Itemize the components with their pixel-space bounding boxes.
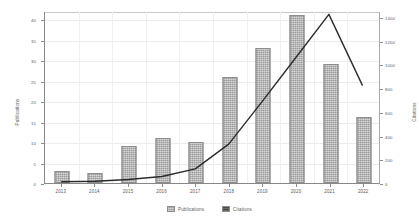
y-axis-left-tick-label: 15 xyxy=(12,120,36,125)
x-axis-tick-label: 2020 xyxy=(291,189,302,194)
y-axis-left-tick-label: 35 xyxy=(12,38,36,43)
y-axis-left-tick-label: 5 xyxy=(12,161,36,166)
plot-area xyxy=(44,12,380,184)
legend-label: Citations xyxy=(233,207,252,212)
x-axis-tick-label: 2014 xyxy=(89,189,100,194)
line-series-citations xyxy=(45,12,379,183)
y-axis-right-tick-label: 1200 xyxy=(385,39,411,44)
x-axis-tick-mark xyxy=(128,184,129,187)
x-axis-tick-mark xyxy=(262,184,263,187)
legend-item[interactable]: Publications xyxy=(167,206,204,212)
x-axis-tick-mark xyxy=(363,184,364,187)
x-axis-tick-mark xyxy=(330,184,331,187)
legend-swatch xyxy=(222,206,230,212)
y-axis-right-tick-label: 600 xyxy=(385,110,411,115)
y-axis-right-tick-label: 400 xyxy=(385,134,411,139)
y-axis-left-tick-label: 40 xyxy=(12,18,36,23)
legend-label: Publications xyxy=(178,207,204,212)
x-axis-tick-mark xyxy=(94,184,95,187)
y-axis-right-title: Citations xyxy=(412,102,417,122)
y-axis-left-tick-label: 0 xyxy=(12,182,36,187)
y-axis-right-tick-label: 0 xyxy=(385,182,411,187)
x-axis-tick-label: 2017 xyxy=(190,189,201,194)
y-axis-left-tick-label: 25 xyxy=(12,79,36,84)
x-axis-tick-label: 2022 xyxy=(358,189,369,194)
y-axis-left-tick-label: 20 xyxy=(12,100,36,105)
x-axis-tick-label: 2016 xyxy=(156,189,167,194)
x-axis-tick-label: 2021 xyxy=(324,189,335,194)
y-axis-right-tick-label: 1000 xyxy=(385,63,411,68)
y-axis-right-tick-label: 1400 xyxy=(385,15,411,20)
chart-figure: Publications Citations 0510152025303540 … xyxy=(0,0,419,224)
y-axis-right-tick-label: 200 xyxy=(385,158,411,163)
legend-item[interactable]: Citations xyxy=(222,206,252,212)
y-axis-left-tick-label: 10 xyxy=(12,141,36,146)
x-axis-tick-label: 2013 xyxy=(55,189,66,194)
x-axis-tick-mark xyxy=(229,184,230,187)
x-axis-tick-mark xyxy=(61,184,62,187)
chart-legend: PublicationsCitations xyxy=(0,206,419,212)
x-axis-tick-label: 2019 xyxy=(257,189,268,194)
y-axis-right-tick-label: 800 xyxy=(385,87,411,92)
x-axis-tick-label: 2015 xyxy=(123,189,134,194)
x-axis-tick-mark xyxy=(162,184,163,187)
y-axis-right-tick-mark xyxy=(380,184,383,185)
x-axis-tick-label: 2018 xyxy=(223,189,234,194)
y-axis-left-tick-mark xyxy=(41,184,44,185)
x-axis-tick-mark xyxy=(296,184,297,187)
x-axis-tick-mark xyxy=(195,184,196,187)
y-axis-left-tick-label: 30 xyxy=(12,59,36,64)
legend-swatch xyxy=(167,206,175,212)
